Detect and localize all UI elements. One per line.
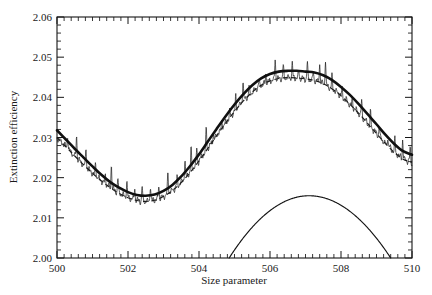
y-tick-label: 2.04 bbox=[33, 91, 53, 103]
x-tick-label: 500 bbox=[49, 262, 66, 274]
x-tick-label: 510 bbox=[404, 262, 421, 274]
y-axis-title: Extinction efficiency bbox=[7, 90, 19, 183]
y-tick-label: 2.02 bbox=[33, 172, 52, 184]
plot-background bbox=[0, 0, 432, 295]
x-tick-label: 508 bbox=[333, 262, 350, 274]
x-tick-label: 506 bbox=[262, 262, 279, 274]
x-tick-label: 502 bbox=[120, 262, 137, 274]
y-tick-label: 2.06 bbox=[33, 11, 53, 23]
y-tick-label: 2.01 bbox=[33, 212, 52, 224]
extinction-efficiency-figure: 2.002.012.022.032.042.052.06 50050250450… bbox=[0, 0, 432, 295]
x-tick-label: 504 bbox=[191, 262, 208, 274]
x-axis-title: Size parameter bbox=[201, 274, 267, 286]
y-tick-label: 2.05 bbox=[33, 51, 53, 63]
chart-canvas: 2.002.012.022.032.042.052.06 50050250450… bbox=[0, 0, 432, 295]
y-tick-label: 2.03 bbox=[33, 132, 53, 144]
